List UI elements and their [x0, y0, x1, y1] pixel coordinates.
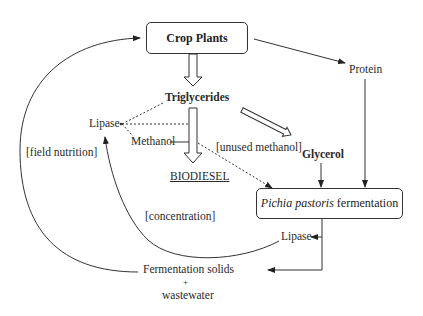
- node-crop-plants: Crop Plants: [146, 22, 248, 54]
- fermentation-organism: Pichia pastoris: [261, 196, 334, 210]
- node-protein: Protein: [349, 64, 382, 76]
- label-concentration: [concentration]: [145, 211, 215, 223]
- node-pichia-fermentation: Pichia pastoris fermentation: [256, 188, 403, 219]
- hollow-arrow-crop-to-triglycerides: [184, 54, 202, 86]
- arrow-fermentation-to-solids: [268, 219, 322, 270]
- hollow-arrow-triglycerides-to-biodiesel: [184, 108, 202, 163]
- node-biodiesel: BIODIESEL: [170, 171, 229, 183]
- node-wastewater: wastewater: [162, 290, 214, 302]
- crop-plants-label: Crop Plants: [166, 31, 227, 46]
- node-glycerol: Glycerol: [302, 149, 344, 161]
- node-triglycerides: Triglycerides: [165, 92, 229, 104]
- label-unused-methanol: [unused methanol]: [216, 142, 302, 154]
- node-fermentation-solids: Fermentation solids: [143, 264, 234, 276]
- arrow-crop-to-protein: [254, 39, 345, 63]
- dotted-lipase-to-triglycerides: [122, 103, 163, 124]
- node-lipase-left: Lipase: [89, 118, 120, 130]
- label-field-nutrition: [field nutrition]: [26, 147, 97, 159]
- node-methanol: Methanol: [131, 136, 175, 148]
- hollow-arrow-triglycerides-to-glycerol: [240, 106, 294, 140]
- plus-sign: +: [183, 278, 188, 287]
- node-lipase-right: Lipase: [281, 231, 312, 243]
- fermentation-label: Pichia pastoris fermentation: [261, 196, 398, 211]
- lipase-left-dot: [120, 123, 123, 126]
- fermentation-suffix: fermentation: [334, 196, 398, 210]
